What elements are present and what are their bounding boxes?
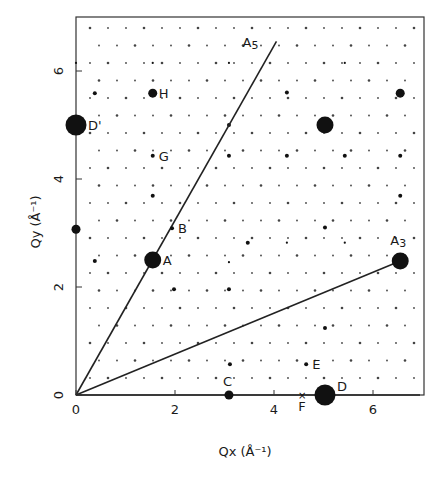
lattice-dot xyxy=(260,289,263,292)
lattice-dot xyxy=(215,377,218,380)
lattice-dot xyxy=(269,237,271,239)
lattice-dot xyxy=(413,377,415,379)
lattice-dot xyxy=(242,220,244,222)
lattice-dot xyxy=(98,79,101,82)
lattice-dot xyxy=(206,150,208,152)
lattice-dot xyxy=(395,97,398,100)
lattice-dot xyxy=(287,377,289,379)
lattice-point xyxy=(227,287,231,291)
lattice-dot xyxy=(152,220,154,222)
lattice-dot xyxy=(125,237,127,239)
lattice-dot xyxy=(332,45,334,47)
lattice-dot xyxy=(350,149,353,152)
lattice-dot xyxy=(215,272,218,275)
lattice-dot xyxy=(179,97,182,100)
lattice-dot xyxy=(233,342,235,344)
lattice-dot xyxy=(404,325,406,327)
lattice-dot xyxy=(143,342,146,345)
lattice-dot xyxy=(188,185,190,187)
lattice-dot xyxy=(89,377,91,379)
lattice-dot xyxy=(341,27,343,29)
lattice-point xyxy=(398,194,402,198)
lattice-dot xyxy=(206,360,208,362)
lattice-point xyxy=(172,287,176,291)
lattice-dot xyxy=(179,27,181,29)
lattice-dot xyxy=(296,44,299,47)
lattice-dot xyxy=(377,237,379,239)
lattice-point xyxy=(228,62,230,64)
lattice-dot xyxy=(314,220,316,222)
lattice-dot xyxy=(179,272,181,274)
lattice-point xyxy=(93,91,97,95)
lattice-dot xyxy=(152,79,155,82)
lattice-dot xyxy=(404,44,407,47)
lattice-dot xyxy=(206,45,208,47)
lattice-dot xyxy=(89,202,91,204)
lattice-dot xyxy=(368,79,371,82)
lattice-dot xyxy=(251,167,253,169)
lattice-dot xyxy=(287,27,289,29)
lattice-dot xyxy=(215,132,217,134)
lattice-dot xyxy=(134,115,136,117)
lattice-dot xyxy=(386,114,389,117)
lattice-dot xyxy=(341,167,343,169)
lattice-dot xyxy=(359,377,361,379)
lattice-dot xyxy=(368,184,371,187)
lattice-dot xyxy=(215,97,217,99)
lattice-dot xyxy=(125,97,128,100)
lattice-dot xyxy=(296,325,298,327)
lattice-dot xyxy=(413,342,416,345)
lattice-dot xyxy=(377,167,380,170)
lattice-dot xyxy=(179,237,181,239)
lattice-dot xyxy=(161,272,164,275)
lattice-dot xyxy=(350,220,352,222)
lattice-dot xyxy=(152,150,154,152)
lattice-dot xyxy=(278,80,280,82)
lattice-dot xyxy=(350,115,352,117)
lattice-dot xyxy=(287,202,290,205)
lattice-dot xyxy=(350,359,353,362)
lattice-dot xyxy=(98,360,100,362)
lattice-dot xyxy=(287,132,289,134)
lattice-dot xyxy=(197,237,200,240)
lattice-dot xyxy=(278,255,280,257)
lattice-dot xyxy=(377,272,380,275)
lattice-dot xyxy=(269,132,271,134)
lattice-dot xyxy=(116,219,119,222)
lattice-dot xyxy=(134,325,136,327)
lattice-dot xyxy=(386,45,388,47)
lattice-dot xyxy=(152,325,154,327)
plot-frame xyxy=(76,17,424,395)
lattice-dot xyxy=(197,307,199,309)
lattice-dot xyxy=(89,307,91,309)
lattice-dot xyxy=(413,97,415,99)
x-tick-label: 2 xyxy=(171,402,179,417)
lattice-dot xyxy=(233,62,235,64)
lattice-dot xyxy=(188,254,191,257)
lattice-dot xyxy=(98,150,100,152)
lattice-dot xyxy=(107,27,109,29)
x-axis-title: Qx (Å⁻¹) xyxy=(218,444,271,459)
lattice-dot xyxy=(224,324,227,327)
lattice-dot xyxy=(413,167,415,169)
point-label: B xyxy=(178,221,187,236)
point-d-prime xyxy=(66,115,87,136)
lattice-dot xyxy=(350,185,352,187)
lattice-dot xyxy=(206,289,209,292)
lattice-dot xyxy=(188,325,190,327)
lattice-dot xyxy=(323,377,326,380)
lattice-dot xyxy=(386,290,388,292)
x-tick-label: 4 xyxy=(270,402,278,417)
lattice-dot xyxy=(395,272,397,274)
lattice-point xyxy=(323,226,327,230)
lattice-dot xyxy=(386,324,389,327)
lattice-dot xyxy=(89,342,92,345)
lattice-dot xyxy=(296,185,298,187)
point-label: F xyxy=(298,399,305,414)
lattice-dot xyxy=(152,289,155,292)
lattice-dot xyxy=(305,202,307,204)
lattice-dot xyxy=(116,360,118,362)
lattice-dot xyxy=(314,79,317,82)
lattice-dot xyxy=(179,307,182,310)
lattice-dot xyxy=(332,255,334,257)
